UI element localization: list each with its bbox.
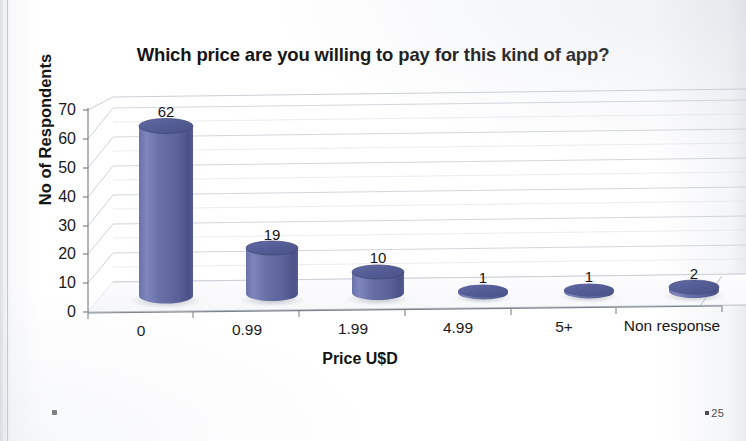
plot-gridlines-faint xyxy=(113,114,746,296)
value-label-bar-0: 62 xyxy=(136,104,196,119)
x-tick-label-non-response: Non response xyxy=(608,317,736,334)
value-label-bar-3: 1 xyxy=(453,270,513,285)
x-tick-label-1-99: 1.99 xyxy=(305,320,401,337)
bar-4[interactable] xyxy=(564,284,614,299)
slide-number-value: 25 xyxy=(711,407,724,419)
x-tick-label-0: 0 xyxy=(93,322,189,339)
plot-side-wall xyxy=(88,97,113,312)
value-label-bar-5: 2 xyxy=(664,266,724,281)
bar-3[interactable] xyxy=(458,285,508,300)
y-tick-label-20: 20 xyxy=(38,246,76,262)
x-tick-label-4-99: 4.99 xyxy=(410,319,506,336)
bar-2[interactable] xyxy=(352,265,404,300)
y-axis-title: No of Respondents xyxy=(36,25,55,235)
bar-5[interactable] xyxy=(669,280,719,298)
chart-plot-svg xyxy=(0,0,746,441)
x-tick-label-0-99: 0.99 xyxy=(199,321,295,338)
x-tick-label-5-plus: 5+ xyxy=(516,318,612,335)
x-axis-title: Price U$D xyxy=(150,350,570,368)
footer-bullet-icon xyxy=(52,410,57,415)
value-label-bar-2: 10 xyxy=(348,250,408,265)
bar-1[interactable] xyxy=(246,241,298,301)
bar-chart: 70 60 50 40 30 20 10 0 0 0.99 1.99 4.99 … xyxy=(0,0,746,441)
bar-0[interactable] xyxy=(139,119,193,304)
y-tick-label-0: 0 xyxy=(38,304,76,320)
slide-number-bullet-icon xyxy=(705,411,709,415)
slide-number: 25 xyxy=(705,407,724,419)
value-label-bar-4: 1 xyxy=(559,269,619,284)
value-label-bar-1: 19 xyxy=(242,227,302,242)
y-axis-ticks xyxy=(83,110,88,312)
y-tick-label-10: 10 xyxy=(38,275,76,291)
presentation-slide: Which price are you willing to pay for t… xyxy=(0,0,746,441)
